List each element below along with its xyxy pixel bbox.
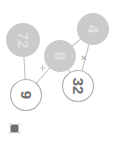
node-32[interactable]: 32	[63, 71, 94, 102]
corner-badge-icon[interactable]	[9, 123, 20, 134]
node-72-label: 72	[15, 32, 32, 49]
node-9-label: 9	[18, 91, 35, 99]
node-4-label: 4	[85, 25, 102, 34]
node-72[interactable]: 72	[6, 23, 40, 57]
multiplication-operator: ×	[78, 55, 90, 61]
diagram-rotation-wrapper: 4 8 72 32 9 × ÷	[0, 0, 119, 141]
division-operator: ÷	[37, 65, 49, 71]
expression-tree: 4 8 72 32 9 × ÷	[0, 0, 119, 141]
node-8-label: 8	[52, 52, 69, 60]
node-4[interactable]: 4	[77, 13, 109, 45]
node-9[interactable]: 9	[11, 80, 42, 111]
diagram-canvas: 4 8 72 32 9 × ÷	[0, 0, 119, 141]
node-32-label: 32	[70, 78, 87, 95]
